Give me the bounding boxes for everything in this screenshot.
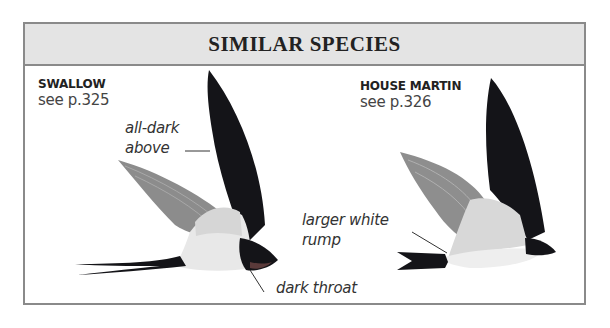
species-name-swallow: SWALLOW (38, 77, 106, 91)
annotation-dark-throat: dark throat (276, 278, 357, 298)
annotation-line: rump (302, 230, 389, 250)
page-reference-swallow[interactable]: see p.325 (38, 91, 109, 109)
species-name-house-martin: HOUSE MARTIN (360, 79, 461, 93)
annotation-larger-white-rump: larger white rump (302, 210, 389, 250)
page-reference-house-martin[interactable]: see p.326 (360, 93, 431, 111)
annotation-line: above (125, 138, 179, 158)
annotation-line: larger white (302, 210, 389, 230)
annotation-all-dark-above: all-dark above (125, 118, 179, 158)
annotation-line: all-dark (125, 118, 179, 138)
